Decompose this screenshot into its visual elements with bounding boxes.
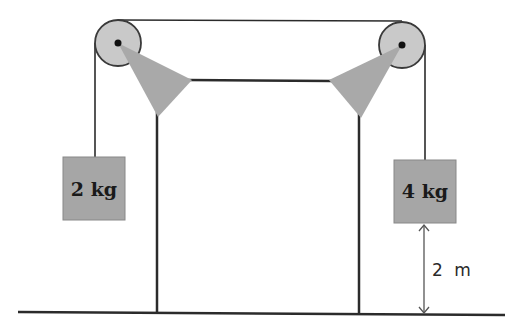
height-dimension-arrow (419, 225, 429, 313)
block-2kg-label: 2 kg (71, 178, 117, 200)
axle-left (115, 40, 122, 47)
block-4kg: 4 kg (394, 160, 456, 223)
height-label: 2 m (432, 260, 474, 280)
block-2kg: 2 kg (63, 157, 125, 220)
pulley-diagram: 2 kg 4 kg 2 m (0, 0, 525, 329)
block-4kg-label: 4 kg (402, 180, 448, 202)
rope-top (118, 20, 402, 21)
support-right (329, 45, 402, 118)
frame-crossbar (188, 80, 332, 81)
axle-right (399, 42, 406, 49)
support-left (118, 43, 192, 117)
ground-line (18, 312, 505, 315)
